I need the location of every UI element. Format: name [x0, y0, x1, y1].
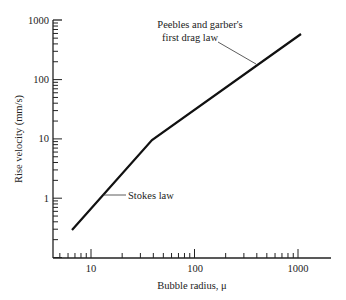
stokes-label: Stokes law — [128, 190, 174, 201]
axes — [53, 20, 331, 258]
x-ticks — [60, 249, 298, 258]
peebles-label-line1: Peebles and garber's — [157, 19, 242, 30]
y-ticks — [53, 23, 62, 257]
x-axis-label: Bubble radius, μ — [157, 280, 227, 291]
y-tick-100: 100 — [33, 74, 49, 85]
y-tick-1: 1 — [44, 193, 49, 204]
y-tick-1000: 1000 — [28, 15, 49, 26]
chart: 1000 100 10 1 10 100 1000 Bubble radius,… — [0, 0, 346, 300]
peebles-label-line2: first drag law — [162, 32, 218, 43]
x-tick-10: 10 — [86, 263, 97, 274]
y-tick-10: 10 — [39, 133, 50, 144]
x-tick-1000: 1000 — [288, 263, 309, 274]
y-axis-label: Rise velocity (mm/s) — [13, 94, 25, 183]
x-tick-100: 100 — [187, 263, 203, 274]
rise-velocity-line — [72, 34, 301, 230]
peebles-leader — [218, 42, 256, 64]
